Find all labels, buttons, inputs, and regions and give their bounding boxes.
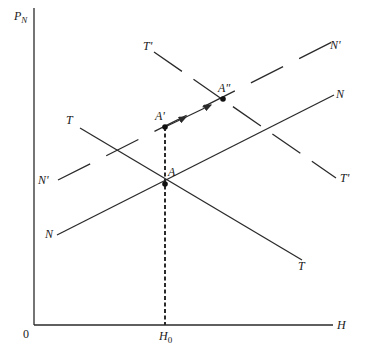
adjustment-arrow-1	[165, 117, 186, 127]
point-a-label: A	[167, 165, 176, 179]
point-a-prime-label: A'	[154, 109, 165, 123]
h0-label: H0	[158, 329, 173, 345]
curve-t-label-end: T	[298, 259, 306, 273]
point-a	[162, 181, 168, 187]
point-a-prime	[162, 124, 168, 130]
curve-t-prime-label-start: T'	[143, 39, 153, 53]
curve-n-prime-label-start: N'	[37, 173, 49, 187]
curve-t-prime-label-end: T'	[340, 171, 350, 185]
economic-diagram: PN H 0 H0 N N N' N' T T T' T' A A' A"	[0, 0, 371, 361]
curve-n-prime	[58, 42, 332, 180]
curve-n	[57, 95, 334, 235]
y-axis-label: PN	[13, 9, 28, 25]
curve-t-label-start: T	[66, 113, 74, 127]
x-axis-label: H	[336, 318, 347, 332]
adjustment-arrow-2	[186, 105, 211, 117]
curve-n-label-end: N	[335, 87, 345, 101]
origin-label: 0	[23, 327, 29, 341]
point-a-double-prime	[220, 96, 226, 102]
curve-n-label-start: N	[44, 227, 54, 241]
point-a-double-prime-label: A"	[217, 81, 231, 95]
curve-t-prime	[154, 52, 336, 178]
curve-n-prime-label-end: N'	[329, 38, 341, 52]
curve-t	[80, 128, 302, 260]
